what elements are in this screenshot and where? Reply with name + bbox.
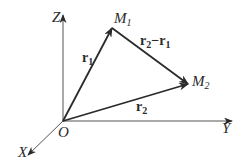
vector-r2-label: r2 <box>136 99 147 116</box>
z-axis-label: Z <box>52 9 61 25</box>
vector-diff-label: r2−r1 <box>140 33 170 50</box>
origin-label: O <box>58 124 69 140</box>
point-m1-label: M1 <box>113 10 132 28</box>
vector-r1-label: r1 <box>82 50 93 67</box>
y-axis-label: Y <box>222 120 232 136</box>
x-axis-label: X <box>17 144 28 160</box>
vector-r2-minus-r1 <box>112 28 188 84</box>
vector-diagram: Z Y X O M1 M2 r1 r2 r2−r1 <box>0 0 245 168</box>
point-m2-label: M2 <box>191 73 210 91</box>
vector-r1 <box>63 28 112 121</box>
vector-r2 <box>63 84 188 121</box>
